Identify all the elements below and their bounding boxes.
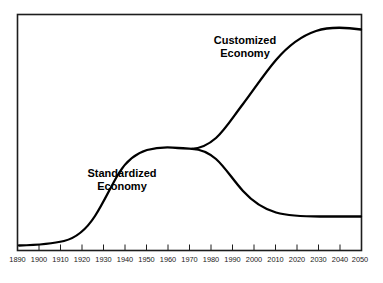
- chart-screenshot: 1890 1900 1910 1920 1930 1940 1950 1960 …: [0, 0, 383, 283]
- x-tick-label-1980: 1980: [203, 255, 219, 264]
- x-axis-tick-labels: 1890 1900 1910 1920 1930 1940 1950 1960 …: [9, 255, 368, 264]
- x-tick-label-2030: 2030: [310, 255, 326, 264]
- x-tick-label-1910: 1910: [52, 255, 68, 264]
- x-tick-label-1920: 1920: [74, 255, 90, 264]
- x-tick-label-2050: 2050: [352, 255, 368, 264]
- customized-economy-label-line2: Economy: [220, 47, 270, 59]
- standardized-economy-label: Standardized Economy: [87, 167, 156, 192]
- x-tick-label-1930: 1930: [95, 255, 111, 264]
- x-tick-label-1960: 1960: [160, 255, 176, 264]
- x-tick-label-1970: 1970: [181, 255, 197, 264]
- standardized-economy-label-line2: Economy: [97, 180, 147, 192]
- x-tick-label-1990: 1990: [224, 255, 240, 264]
- x-tick-label-1900: 1900: [31, 255, 47, 264]
- economy-transition-line-chart: 1890 1900 1910 1920 1930 1940 1950 1960 …: [0, 0, 383, 283]
- x-tick-label-1940: 1940: [117, 255, 133, 264]
- customized-economy-label: Customized Economy: [214, 34, 276, 59]
- x-tick-label-2000: 2000: [246, 255, 262, 264]
- x-tick-label-2020: 2020: [289, 255, 305, 264]
- standardized-economy-label-line1: Standardized: [87, 167, 156, 179]
- x-tick-label-1890: 1890: [9, 255, 25, 264]
- x-tick-label-2040: 2040: [332, 255, 348, 264]
- x-tick-label-2010: 2010: [267, 255, 283, 264]
- chart-background: [0, 0, 383, 283]
- x-tick-label-1950: 1950: [138, 255, 154, 264]
- customized-economy-label-line1: Customized: [214, 34, 276, 46]
